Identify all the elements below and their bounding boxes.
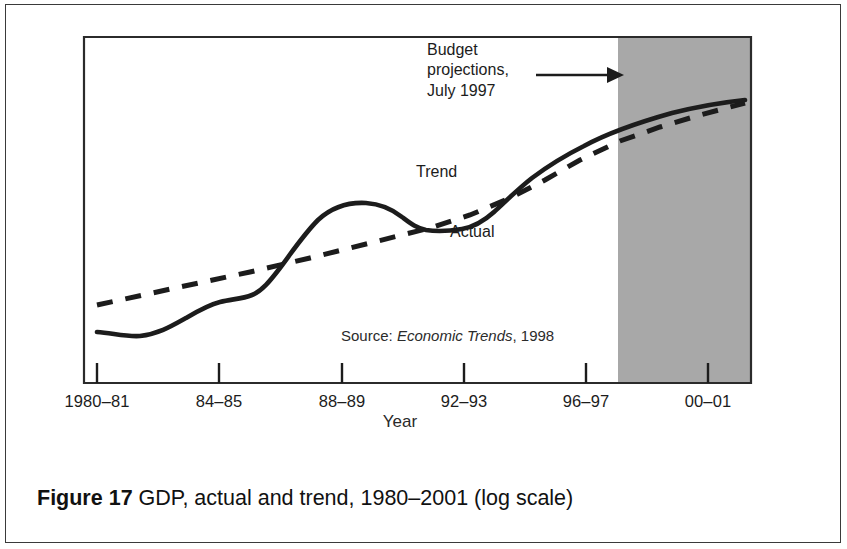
projection-shaded-region (618, 38, 751, 383)
figure-caption-text: GDP, actual and trend, 1980–2001 (log sc… (133, 486, 574, 510)
budget-projection-arrow-icon (536, 67, 624, 83)
annotation-budget-projections: Budget projections, July 1997 (427, 40, 509, 101)
x-tick-label-0: 1980–81 (65, 392, 130, 411)
source-publication: Economic Trends (397, 327, 513, 344)
series-label-actual: Actual (450, 222, 494, 242)
source-suffix: , 1998 (512, 327, 554, 344)
chart-plot-area (0, 0, 847, 549)
figure-caption-label: Figure 17 (37, 486, 133, 510)
x-tick-label-1: 84–85 (196, 392, 242, 411)
x-axis-ticks (97, 363, 708, 383)
x-tick-label-4: 96–97 (563, 392, 609, 411)
annotation-budget-line-3: July 1997 (427, 81, 509, 101)
x-axis-title: Year (383, 412, 417, 432)
figure-container: Budget projections, July 1997 Trend Actu… (0, 0, 847, 549)
series-label-trend: Trend (416, 162, 457, 182)
figure-caption: Figure 17 GDP, actual and trend, 1980–20… (37, 486, 573, 511)
x-tick-label-2: 88–89 (319, 392, 365, 411)
x-tick-label-5: 00–01 (685, 392, 731, 411)
source-prefix: Source: (341, 327, 397, 344)
annotation-budget-line-2: projections, (427, 60, 509, 80)
source-note: Source: Economic Trends, 1998 (341, 326, 554, 345)
annotation-budget-line-1: Budget (427, 40, 509, 60)
x-tick-label-3: 92–93 (441, 392, 487, 411)
